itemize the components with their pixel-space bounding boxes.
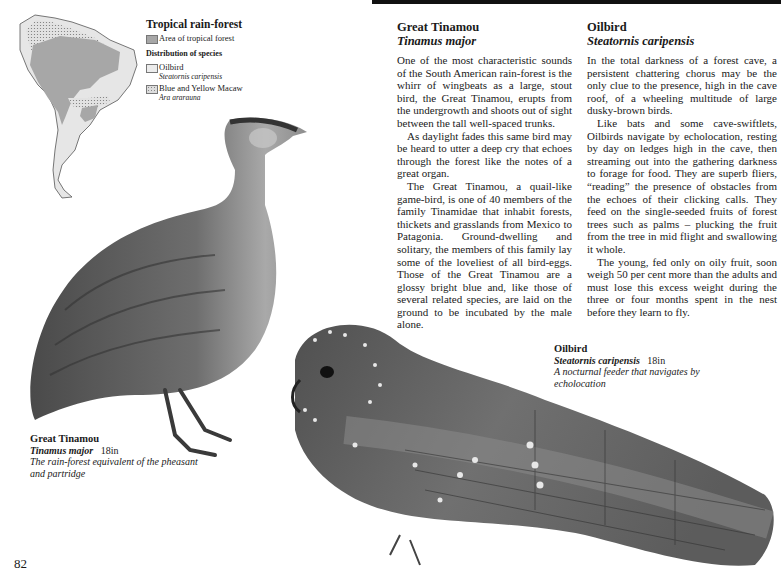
- oilbird-swatch-icon: [146, 64, 158, 73]
- map-legend: Tropical rain-forest Area of tropical fo…: [146, 18, 266, 105]
- article-scientific-name: Tinamus major: [397, 34, 572, 48]
- page-number: 82: [14, 556, 27, 572]
- article-paragraph: One of the most characteristic sounds of…: [397, 54, 572, 130]
- article-great-tinamou: Great Tinamou Tinamus major One of the m…: [397, 20, 572, 331]
- tinamou-caption: Great Tinamou Tinamus major 18in The rai…: [30, 433, 200, 479]
- legend-distribution-heading: Distribution of species: [146, 49, 266, 59]
- article-oilbird: Oilbird Steatornis caripensis In the tot…: [587, 20, 777, 318]
- article-paragraph: The Great Tinamou, a quail-like game-bir…: [397, 180, 572, 331]
- legend-title: Tropical rain-forest: [146, 18, 266, 31]
- forest-swatch-icon: [146, 35, 158, 44]
- macaw-swatch-icon: [146, 85, 158, 94]
- article-title: Oilbird: [587, 20, 777, 34]
- article-paragraph: As daylight fades this same bird may be …: [397, 130, 572, 180]
- legend-forest: Area of tropical forest: [146, 34, 266, 44]
- legend-macaw: Blue and Yellow MacawAra ararauna: [146, 84, 266, 102]
- article-paragraph: In the total darkness of a forest cave, …: [587, 54, 777, 117]
- article-title: Great Tinamou: [397, 20, 572, 34]
- article-paragraph: The young, fed only on oily fruit, soon …: [587, 256, 777, 319]
- great-tinamou-illustration: [25, 110, 315, 460]
- top-photo-edge: [372, 0, 781, 4]
- article-scientific-name: Steatornis caripensis: [587, 34, 777, 48]
- article-paragraph: Like bats and some cave-swiftlets, Oilbi…: [587, 117, 777, 256]
- legend-oilbird: OilbirdSteatornis caripensis: [146, 63, 266, 81]
- oilbird-caption: Oilbird Steatornis caripensis 18in A noc…: [554, 343, 744, 389]
